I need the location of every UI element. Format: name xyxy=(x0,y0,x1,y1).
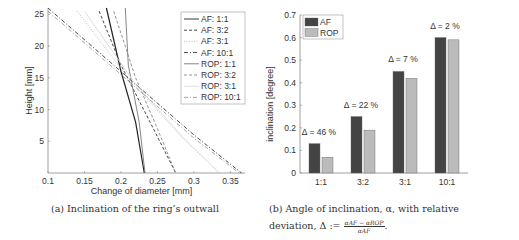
tick-label: 0.3 xyxy=(284,100,296,110)
tick-label: 0.1 xyxy=(284,145,296,155)
fraction-denominator: αAF xyxy=(344,227,385,234)
bar-rop xyxy=(406,78,417,173)
delta-annotation: Δ = 7 % xyxy=(388,54,418,64)
legend-swatch xyxy=(305,29,318,37)
tick-label: 0.7 xyxy=(284,10,296,20)
bar-af xyxy=(435,38,446,173)
caption-b-line1: (b) Angle of inclination, α, with relati… xyxy=(269,203,459,214)
tick-label: 5 xyxy=(39,136,44,146)
tick-label: 0.35 xyxy=(222,176,239,186)
tick-label: 0.3 xyxy=(188,176,200,186)
fraction-numerator: αAF − αROP xyxy=(344,219,385,227)
legend-entry: AF: 1:1 xyxy=(201,14,229,24)
tick-label: 0 xyxy=(291,168,296,178)
tick-label: 10 xyxy=(35,105,45,115)
bar-af xyxy=(351,117,362,173)
category-label: 10:1 xyxy=(439,177,456,187)
legend-entry: AF: 10:1 xyxy=(201,48,233,58)
category-label: 3:2 xyxy=(357,177,369,187)
y-axis-label: inclination [degree] xyxy=(265,66,275,142)
bar-rop xyxy=(364,130,375,173)
tick-label: 0.2 xyxy=(115,176,127,186)
legend-entry: ROP: 3:1 xyxy=(201,81,236,91)
caption-b-prefix: deviation, Δ := xyxy=(269,220,341,231)
series-line xyxy=(99,11,176,173)
delta-annotation: Δ = 46 % xyxy=(302,127,337,137)
bar-af xyxy=(393,71,404,173)
series-line xyxy=(125,8,145,173)
caption-b-line2: deviation, Δ := αAF − αROP αAF . xyxy=(269,219,388,234)
category-label: 1:1 xyxy=(315,177,327,187)
caption-a: (a) Inclination of the ring’s outwall xyxy=(51,203,219,214)
caption-b-fraction: αAF − αROP αAF xyxy=(344,219,385,234)
delta-annotation: Δ = 22 % xyxy=(344,100,379,110)
tick-label: 0.1 xyxy=(42,176,54,186)
tick-label: 0.15 xyxy=(76,176,93,186)
legend-entry: ROP: 1:1 xyxy=(201,59,236,69)
bar-chart: AFROP xyxy=(300,15,468,173)
legend-entry: AF: 3:2 xyxy=(201,25,229,35)
legend-entry: AF: 3:1 xyxy=(201,36,229,46)
tick-label: 0.5 xyxy=(284,55,296,65)
bar-af xyxy=(309,144,320,173)
legend-entry: ROP: 3:2 xyxy=(201,70,236,80)
tick-label: 0.25 xyxy=(149,176,166,186)
legend-entry: ROP: 10:1 xyxy=(201,92,241,102)
bar-rop xyxy=(322,157,333,173)
delta-annotation: Δ = 2 % xyxy=(430,21,460,31)
legend-swatch xyxy=(305,18,318,26)
tick-label: 15 xyxy=(35,73,45,83)
tick-label: 0.2 xyxy=(284,123,296,133)
category-label: 3:1 xyxy=(399,177,411,187)
legend: AFROP xyxy=(303,15,343,39)
legend-entry: ROP xyxy=(320,28,339,38)
x-axis-label: Change of diameter [mm] xyxy=(91,186,193,196)
line-chart: AF: 1:1AF: 3:2AF: 3:1AF: 10:1ROP: 1:1ROP… xyxy=(48,8,245,173)
y-axis-label: Height [mm] xyxy=(24,66,34,115)
legend: AF: 1:1AF: 3:2AF: 3:1AF: 10:1ROP: 1:1ROP… xyxy=(181,12,245,104)
bar-rop xyxy=(448,40,459,173)
tick-label: 0.4 xyxy=(284,78,296,88)
tick-label: 0.6 xyxy=(284,33,296,43)
legend-entry: AF xyxy=(320,17,331,27)
tick-label: 25 xyxy=(35,9,45,19)
tick-label: 20 xyxy=(35,41,45,51)
